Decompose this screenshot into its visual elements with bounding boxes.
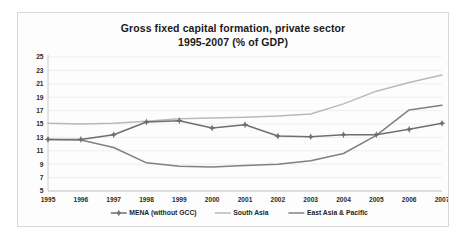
- y-axis-tick-label: 25: [36, 53, 44, 60]
- y-axis-tick-label: 23: [36, 67, 44, 74]
- x-axis-tick-label: 2005: [369, 196, 384, 203]
- x-axis-tick-label: 1995: [41, 196, 56, 203]
- x-axis-tick-label: 2006: [402, 196, 417, 203]
- y-axis-tick-label: 7: [40, 174, 44, 181]
- line-chart-plot: 5791113151719212325199519961997199819992…: [18, 13, 448, 226]
- x-axis-tick-label: 2002: [270, 196, 285, 203]
- x-axis-tick-label: 2004: [336, 196, 351, 203]
- y-axis-tick-label: 9: [40, 161, 44, 168]
- y-axis-tick-label: 21: [36, 80, 44, 87]
- y-axis-tick-label: 19: [36, 94, 44, 101]
- series-line-1: [48, 75, 442, 124]
- x-axis-tick-label: 1998: [139, 196, 154, 203]
- legend-label-0: MENA (without GCC): [129, 209, 196, 217]
- x-axis-tick-label: 2000: [205, 196, 220, 203]
- y-axis-tick-label: 11: [37, 147, 44, 154]
- x-axis-tick-label: 2001: [238, 196, 253, 203]
- x-axis-tick-label: 1999: [172, 196, 187, 203]
- x-axis-tick-label: 2003: [303, 196, 318, 203]
- legend-label-1: South Asia: [233, 209, 268, 216]
- legend-label-2: East Asia & Pacific: [307, 209, 368, 216]
- x-axis-tick-label: 1996: [73, 196, 88, 203]
- chart-container: Gross fixed capital formation, private s…: [17, 12, 449, 227]
- y-axis-tick-label: 15: [36, 120, 44, 127]
- y-axis-tick-label: 13: [36, 134, 44, 141]
- y-axis-tick-label: 17: [36, 107, 44, 114]
- y-axis-tick-label: 5: [40, 187, 44, 194]
- x-axis-tick-label: 2007: [435, 196, 448, 203]
- x-axis-tick-label: 1997: [106, 196, 121, 203]
